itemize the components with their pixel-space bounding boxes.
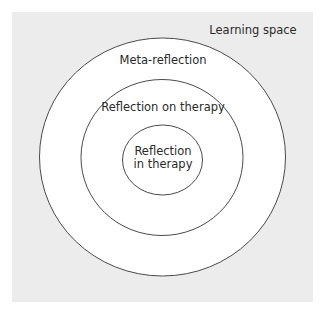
meta-reflection-label: Meta-reflection xyxy=(120,53,207,67)
learning-space-label: Learning space xyxy=(209,23,296,37)
reflection-in-therapy-label-line1: Reflection xyxy=(134,144,191,158)
reflection-in-therapy-label-line2: in therapy xyxy=(134,157,193,171)
concentric-reflection-diagram: Learning space Meta-reflection Reflectio… xyxy=(0,0,326,311)
reflection-on-therapy-label: Reflection on therapy xyxy=(101,100,225,114)
